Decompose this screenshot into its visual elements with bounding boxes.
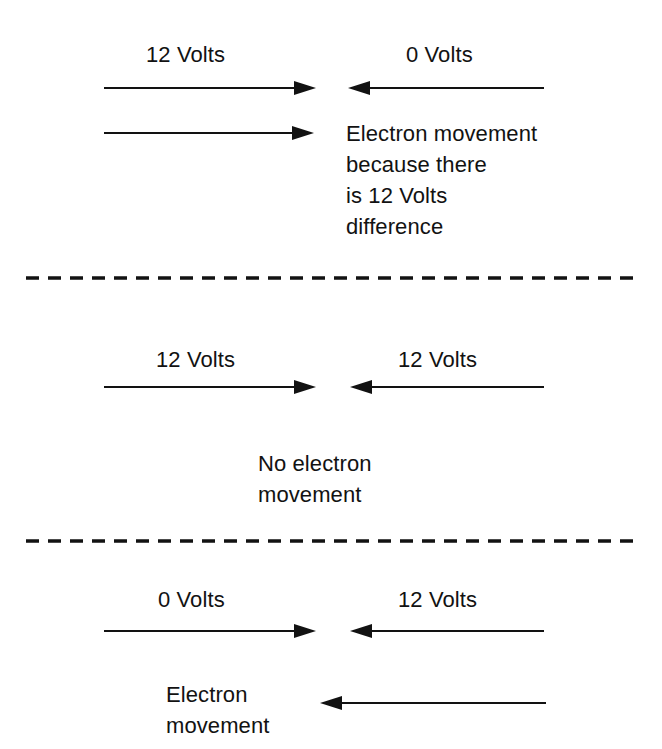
section-2-note: No electron movement	[258, 448, 372, 510]
section-3-result-arrow-left	[320, 693, 546, 713]
divider-2	[26, 538, 636, 544]
section-2-right-arrow-left	[350, 377, 544, 397]
voltage-electron-diagram: 12 Volts 0 Volts Electron movement becau…	[0, 0, 662, 749]
section-1-right-voltage-label: 0 Volts	[406, 40, 473, 69]
section-1-extra-arrow-right	[104, 123, 314, 143]
section-3-right-arrow-left	[350, 621, 544, 641]
section-1-left-arrow-right	[104, 78, 316, 98]
section-3-left-arrow-right	[104, 621, 316, 641]
section-2-left-arrow-right	[104, 377, 316, 397]
divider-1	[26, 275, 636, 281]
section-1-right-arrow-left	[348, 78, 544, 98]
section-3-left-voltage-label: 0 Volts	[158, 585, 225, 614]
section-1-left-voltage-label: 12 Volts	[146, 40, 225, 69]
section-3-note: Electron movement	[166, 679, 270, 741]
section-1-note: Electron movement because there is 12 Vo…	[346, 118, 537, 242]
section-2-left-voltage-label: 12 Volts	[156, 345, 235, 374]
section-2-right-voltage-label: 12 Volts	[398, 345, 477, 374]
section-3-right-voltage-label: 12 Volts	[398, 585, 477, 614]
